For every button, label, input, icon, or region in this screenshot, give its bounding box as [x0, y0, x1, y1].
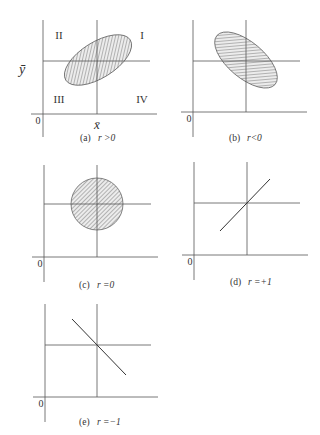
- quadrant-IV-label: IV: [136, 93, 148, 105]
- caption-tag: (d): [230, 277, 241, 288]
- caption-expression: r =−1: [97, 417, 121, 427]
- correlation-diagram: II I III IV ȳ x̄ 0 (a) r >0 0 (b) r<0 0 …: [0, 0, 320, 435]
- caption-expression: r =0: [97, 280, 114, 290]
- caption-tag: (a): [80, 133, 91, 144]
- panel-a: II I III IV ȳ x̄ 0 (a) r >0: [17, 20, 157, 144]
- origin-label: 0: [39, 398, 44, 409]
- caption-tag: (c): [79, 280, 90, 291]
- x-mean-label: x̄: [93, 117, 100, 132]
- caption-tag: (e): [79, 417, 90, 428]
- panel-d: 0 (d) r =+1: [182, 162, 308, 288]
- origin-label: 0: [38, 258, 43, 269]
- panel-c: 0 (c) r =0: [32, 165, 158, 291]
- caption-tag: (b): [229, 133, 240, 144]
- origin-label: 0: [187, 113, 192, 124]
- origin-label: 0: [188, 256, 193, 267]
- quadrant-III-label: III: [54, 93, 65, 105]
- quadrant-II-label: II: [55, 29, 63, 41]
- perfect-positive-line: [220, 179, 270, 231]
- caption-expression: r =+1: [248, 277, 272, 287]
- scatter-ellipse-positive: [56, 25, 140, 96]
- caption-expression: r<0: [247, 133, 262, 143]
- quadrant-I-label: I: [140, 29, 144, 41]
- y-mean-label: ȳ: [17, 62, 26, 77]
- perfect-negative-line: [72, 319, 126, 375]
- panel-b: 0 (b) r<0: [181, 20, 307, 144]
- panel-e: 0 (e) r =−1: [33, 304, 158, 428]
- origin-label: 0: [36, 115, 41, 126]
- caption-expression: r >0: [98, 133, 115, 143]
